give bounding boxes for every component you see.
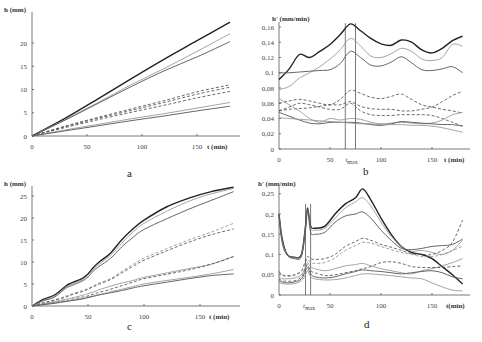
x-tick-label: 0 [30, 143, 34, 151]
x-tick-label: 50 [84, 143, 92, 151]
y-tick-label: 20 [20, 215, 28, 223]
x-tick-label: 100 [137, 143, 148, 151]
y-tick-label: 0 [271, 146, 275, 154]
panel-caption-b: b [363, 165, 369, 177]
y-axis-label: h' (mm/min) [272, 15, 310, 23]
y-tick-label: 0,12 [262, 54, 275, 62]
y-tick-label: 0,05 [262, 271, 275, 279]
series-line-s3 [32, 42, 230, 136]
series-line-s3 [279, 210, 463, 260]
x-tick-label: 150 [427, 156, 438, 164]
y-tick-label: 25 [20, 193, 28, 201]
y-tick-label: 0,04 [262, 115, 275, 123]
y-tick-label: 0,16 [262, 24, 275, 32]
x-tick-label: 50 [327, 156, 335, 164]
x-tick-label: 100 [139, 313, 150, 321]
y-tick-label: 0,2 [265, 211, 274, 219]
series-line-s4 [279, 90, 463, 113]
series-line-s2 [279, 38, 463, 89]
x-axis-label: t (min) [207, 143, 228, 151]
y-tick-label: 0,15 [262, 231, 275, 239]
y-tick-label: 5 [24, 109, 28, 117]
figure: 05010015005101520h (mm)t (min) 050100150… [0, 0, 482, 342]
y-tick-label: 0,14 [262, 39, 275, 47]
tmax-label: tmax [303, 302, 315, 311]
series-line-s3 [279, 51, 463, 73]
x-tick-label: 100 [376, 156, 387, 164]
x-tick-label: 150 [192, 143, 203, 151]
x-axis-label: t (min) [209, 313, 230, 321]
series-line-s8 [279, 267, 463, 283]
y-tick-label: 10 [20, 259, 28, 267]
y-tick-label: 0,06 [262, 100, 275, 108]
x-tick-label: 50 [85, 313, 93, 321]
y-tick-label: 15 [20, 63, 28, 71]
tmax-label: tmax [345, 156, 357, 165]
chart-panel-d: 05010015000,050,10,150,20,25h' (mm/min)t… [258, 180, 470, 311]
panel-caption-c: c [127, 320, 132, 332]
x-tick-label: 0 [277, 302, 281, 310]
y-tick-label: 0,25 [262, 190, 275, 198]
x-axis-label: t(min) [446, 302, 465, 310]
panel-caption-d: d [364, 318, 370, 330]
y-tick-label: 0,08 [262, 85, 275, 93]
x-tick-label: 0 [277, 156, 281, 164]
chart-panel-c: 0501001500510152025h (mm)t (min) [4, 180, 240, 321]
x-tick-label: 150 [195, 313, 206, 321]
series-line-s2 [279, 198, 463, 259]
y-tick-label: 0 [24, 303, 28, 311]
series-line-s1 [279, 189, 463, 284]
x-tick-label: 150 [427, 302, 438, 310]
series-line-s5 [32, 229, 234, 306]
y-tick-label: 5 [24, 281, 28, 289]
y-axis-label: h (mm) [4, 6, 27, 14]
y-axis-label: h' (mm/min) [258, 180, 296, 188]
y-tick-label: 15 [20, 237, 28, 245]
chart-panel-a: 05010015005101520h (mm)t (min) [4, 6, 240, 151]
series-line-s4 [32, 223, 234, 306]
y-tick-label: 0,1 [265, 251, 274, 259]
y-tick-label: 0 [24, 133, 28, 141]
series-line-s9 [279, 271, 463, 291]
x-axis-label: t (min) [444, 156, 465, 164]
x-tick-label: 50 [327, 302, 335, 310]
y-tick-label: 0,02 [262, 130, 275, 138]
chart-panel-b: 05010015000,020,040,060,080,10,120,140,1… [262, 15, 470, 165]
y-tick-label: 0,1 [265, 69, 274, 77]
y-axis-label: h (mm) [4, 180, 27, 188]
y-tick-label: 10 [20, 86, 28, 94]
series-line-s6 [32, 91, 230, 136]
x-tick-label: 100 [376, 302, 387, 310]
y-tick-label: 0 [271, 292, 275, 300]
panel-caption-a: a [127, 167, 132, 179]
x-tick-label: 0 [30, 313, 34, 321]
y-tick-label: 20 [20, 40, 28, 48]
